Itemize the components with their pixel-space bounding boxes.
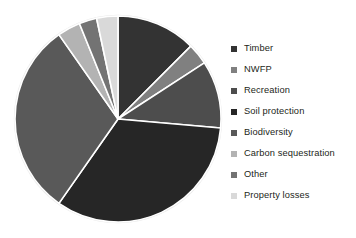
legend-item-label: Recreation — [244, 85, 290, 96]
legend-item[interactable]: Property losses — [228, 185, 356, 206]
legend-item[interactable]: Timber — [228, 38, 356, 59]
legend-swatch-icon — [231, 88, 237, 94]
legend-item-label: Other — [244, 169, 268, 180]
legend-swatch-icon — [231, 172, 237, 178]
pie-chart-figure: TimberNWFPRecreationSoil protectionBiodi… — [0, 0, 356, 238]
legend-item-label: Property losses — [244, 190, 310, 201]
legend-item-label: Soil protection — [244, 106, 304, 117]
legend-item[interactable]: Recreation — [228, 80, 356, 101]
pie-chart-plot-area — [0, 0, 228, 238]
legend-item[interactable]: NWFP — [228, 59, 356, 80]
legend-item-label: NWFP — [244, 64, 272, 75]
legend-item-label: Biodiversity — [244, 127, 293, 138]
legend-swatch-icon — [231, 67, 237, 73]
legend-swatch-icon — [231, 109, 237, 115]
legend-swatch-icon — [231, 46, 237, 52]
legend-item-label: Timber — [244, 43, 273, 54]
legend-item[interactable]: Carbon sequestration — [228, 143, 356, 164]
legend-item[interactable]: Soil protection — [228, 101, 356, 122]
legend-item[interactable]: Biodiversity — [228, 122, 356, 143]
legend-swatch-icon — [231, 130, 237, 136]
legend-swatch-icon — [231, 193, 237, 199]
legend-item[interactable]: Other — [228, 164, 356, 185]
legend-item-label: Carbon sequestration — [244, 148, 335, 159]
pie-chart-svg — [0, 0, 228, 238]
chart-legend: TimberNWFPRecreationSoil protectionBiodi… — [228, 0, 356, 238]
legend-swatch-icon — [231, 151, 237, 157]
